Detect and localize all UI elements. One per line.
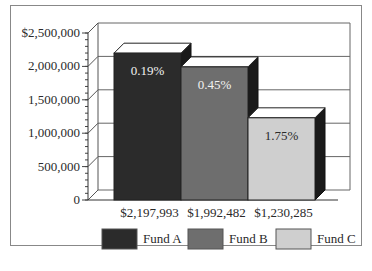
legend-swatch [188,229,223,249]
bar-top [114,43,191,53]
legend-label: Fund C [317,231,356,246]
y-tick-label: 0 [74,192,81,207]
bar-value-label: 0.19% [131,63,165,78]
bar-side [315,108,325,200]
bar-top [181,57,258,67]
y-tick-label: 2,000,000 [28,58,80,73]
bar-chart: 0500,0001,000,0001,500,0002,000,000$2,50… [0,0,372,271]
gridline-diagonal [88,90,98,100]
gridline-diagonal [88,123,98,133]
x-category-label: $1,230,285 [254,205,313,220]
y-tick-label: 1,000,000 [28,125,80,140]
legend-swatch [102,229,137,249]
gridline-diagonal [88,190,98,200]
gridline-diagonal [88,56,98,66]
bar-value-label: 0.45% [198,77,232,92]
legend-swatch [276,229,311,249]
y-tick-label: 1,500,000 [28,92,80,107]
y-tick-label: 500,000 [38,159,80,174]
bar-top [248,108,325,118]
gridline-diagonal [88,157,98,167]
bar-value-label: 1.75% [265,128,299,143]
y-tick-label: $2,500,000 [22,25,81,40]
legend-label: Fund A [143,231,182,246]
x-category-label: $1,992,482 [187,205,246,220]
gridline-diagonal [88,23,98,33]
legend-label: Fund B [229,231,268,246]
x-category-label: $2,197,993 [120,205,179,220]
